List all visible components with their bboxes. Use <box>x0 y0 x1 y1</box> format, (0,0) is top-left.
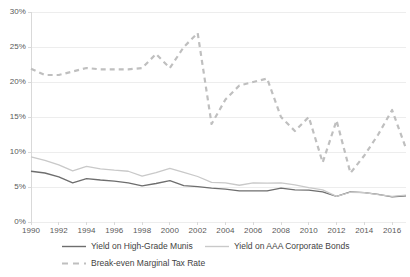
y-tick-label: 0% <box>2 217 26 226</box>
x-tick-label: 2012 <box>322 226 352 235</box>
legend-label-aaa-corporate: Yield on AAA Corporate Bonds <box>234 241 349 251</box>
legend-item-aaa-corporate[interactable]: Yield on AAA Corporate Bonds <box>205 241 349 251</box>
legend-swatch-munis <box>62 242 86 251</box>
x-tick-label: 1994 <box>72 226 102 235</box>
x-tick-label: 2004 <box>210 226 240 235</box>
y-tick-label: 30% <box>2 7 26 16</box>
legend-label-breakeven-tax-rate: Break-even Marginal Tax Rate <box>91 258 205 268</box>
y-tick-label: 5% <box>2 182 26 191</box>
gridlines <box>31 12 406 222</box>
x-tick-label: 2008 <box>266 226 296 235</box>
chart-plot-area <box>0 0 410 277</box>
x-tick-label: 2002 <box>183 226 213 235</box>
x-tick-label: 2010 <box>294 226 324 235</box>
y-tick-label: 25% <box>2 42 26 51</box>
y-axis-line <box>28 12 392 225</box>
y-tick-label: 20% <box>2 77 26 86</box>
x-tick-label: 2006 <box>238 226 268 235</box>
chart-legend: Yield on High-Grade Munis Yield on AAA C… <box>0 240 410 277</box>
y-tick-label: 15% <box>2 112 26 121</box>
x-tick-label: 1998 <box>127 226 157 235</box>
legend-swatch-breakeven-tax-rate <box>62 259 86 268</box>
legend-label-munis: Yield on High-Grade Munis <box>91 241 193 251</box>
x-tick-label: 1996 <box>99 226 129 235</box>
chart-container: 0%5%10%15%20%25%30% 19901992199419961998… <box>0 0 410 277</box>
x-tick-label: 1990 <box>16 226 46 235</box>
x-tick-label: 2000 <box>155 226 185 235</box>
series-lines <box>31 33 406 197</box>
x-tick-label: 2016 <box>377 226 407 235</box>
legend-item-munis[interactable]: Yield on High-Grade Munis <box>62 241 193 251</box>
legend-swatch-aaa-corporate <box>205 242 229 251</box>
x-tick-label: 2014 <box>349 226 379 235</box>
legend-item-breakeven-tax-rate[interactable]: Break-even Marginal Tax Rate <box>62 258 205 268</box>
series-line-1 <box>31 157 406 197</box>
y-tick-label: 10% <box>2 147 26 156</box>
x-tick-label: 1992 <box>44 226 74 235</box>
